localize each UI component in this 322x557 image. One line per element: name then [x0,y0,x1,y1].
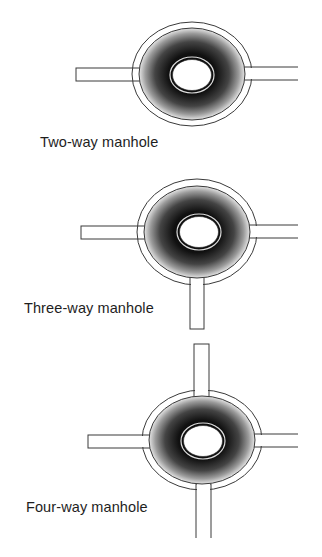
four-way-manhole-label: Four-way manhole [26,499,148,515]
opening [173,60,212,91]
pipe-bottom [196,484,211,538]
opening [184,426,223,457]
two-way-manhole [76,22,298,126]
three-way-manhole-label: Three-way manhole [24,300,154,316]
opening [180,217,219,248]
two-way-manhole-label: Two-way manhole [40,134,158,150]
pipe-left [81,226,148,239]
manhole-diagram [0,0,322,557]
